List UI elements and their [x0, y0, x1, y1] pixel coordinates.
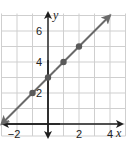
data-point: [29, 90, 35, 96]
x-axis-label: x: [115, 126, 122, 140]
coordinate-plane: −224246 y x: [0, 0, 129, 141]
y-tick-label: 6: [36, 25, 42, 37]
data-point: [76, 43, 82, 49]
data-point: [60, 59, 66, 65]
y-axis-label: y: [52, 8, 59, 22]
y-tick-label: 2: [36, 87, 42, 99]
grid: [2, 14, 126, 137]
data-series: [2, 16, 111, 125]
axes: [3, 13, 122, 137]
x-tick-label: 2: [76, 128, 82, 140]
x-tick-label: 4: [107, 128, 113, 140]
tick-labels: −224246: [8, 25, 113, 140]
x-tick-label: −2: [8, 128, 21, 140]
y-tick-label: 4: [36, 56, 42, 68]
data-point: [45, 74, 51, 80]
